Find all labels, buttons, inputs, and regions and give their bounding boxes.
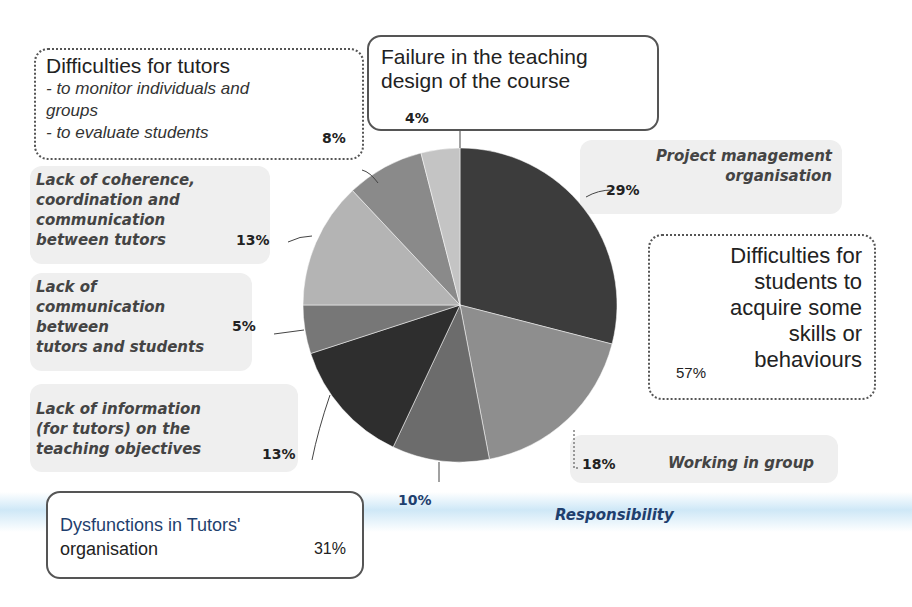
tutors-organisation-line1: Dysfunctions in Tutors': [60, 513, 346, 537]
coherence-line1: Lack of coherence,: [36, 170, 195, 190]
teaching-design-line2: design of the course: [381, 69, 657, 93]
pct-18: 18%: [582, 456, 616, 472]
coherence-label: Lack of coherence, coordination and comm…: [36, 170, 195, 250]
project-mgmt-line1: Project management: [590, 146, 832, 166]
pct-31: 31%: [314, 537, 346, 561]
pct-13-information: 13%: [262, 446, 296, 462]
comm-line1: Lack of: [36, 277, 204, 297]
working-group-label: Working in group: [668, 453, 814, 473]
pct-4: 4%: [405, 110, 429, 126]
pct-29: 29%: [606, 182, 640, 198]
coherence-line3: communication: [36, 210, 195, 230]
pie-slices: [303, 148, 617, 462]
tutors-difficulties-title: Difficulties for tutors: [46, 54, 362, 78]
information-label: Lack of information (for tutors) on the …: [36, 399, 201, 459]
tutors-difficulties-line2: groups: [46, 100, 362, 122]
coherence-line4: between tutors: [36, 230, 195, 250]
comm-line4: tutors and students: [36, 337, 204, 357]
tutors-difficulties-box: Difficulties for tutors - to monitor ind…: [34, 48, 364, 160]
coherence-line2: coordination and: [36, 190, 195, 210]
comm-line2: communication: [36, 297, 204, 317]
pct-57: 57%: [676, 364, 706, 381]
tutors-organisation-box: Dysfunctions in Tutors' organisation 31%: [46, 491, 364, 579]
pct-10: 10%: [398, 492, 432, 508]
pct-13-coherence: 13%: [236, 232, 270, 248]
teaching-design-line1: Failure in the teaching: [381, 45, 657, 69]
project-mgmt-label: Project management organisation: [590, 146, 832, 186]
comm-label: Lack of communication between tutors and…: [36, 277, 204, 357]
tutors-organisation-row: organisation 31%: [60, 537, 346, 561]
information-line3: teaching objectives: [36, 439, 201, 459]
comm-line3: between: [36, 317, 204, 337]
pct-8: 8%: [322, 130, 346, 146]
students-difficulties-line1: Difficulties for: [650, 243, 862, 269]
students-difficulties-line3: acquire some: [650, 295, 862, 321]
information-line1: Lack of information: [36, 399, 201, 419]
tutors-organisation-line2: organisation: [60, 537, 158, 561]
pct-5: 5%: [232, 318, 256, 334]
students-difficulties-line2: students to: [650, 269, 862, 295]
responsibility-label: Responsibility: [555, 505, 674, 525]
tutors-difficulties-line1: - to monitor individuals and: [46, 78, 362, 100]
students-difficulties-line4: skills or: [650, 321, 862, 347]
tutors-difficulties-line3: - to evaluate students: [46, 122, 362, 144]
information-line2: (for tutors) on the: [36, 419, 201, 439]
